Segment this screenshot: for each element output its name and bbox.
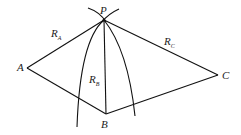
label-A: A [16, 61, 24, 73]
diagram-canvas: P A B C RA RB RC [0, 0, 241, 135]
segment-BC [106, 75, 218, 114]
arc-right [104, 20, 135, 116]
segment-PB [104, 20, 106, 114]
segment-PA [27, 20, 104, 68]
label-B: B [101, 118, 108, 130]
label-RA: RA [50, 27, 62, 41]
segment-PC [104, 20, 218, 75]
label-RC: RC [163, 35, 176, 49]
geometry-diagram: P A B C RA RB RC [0, 0, 241, 135]
label-C: C [222, 69, 230, 81]
point-P-dot [103, 19, 106, 22]
label-P: P [99, 4, 107, 16]
label-RB: RB [88, 73, 100, 87]
